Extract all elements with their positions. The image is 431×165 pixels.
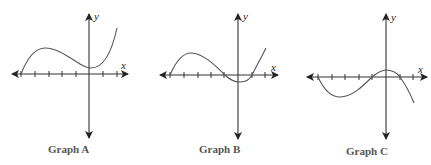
graph-c-caption: Graph C [346, 145, 388, 157]
graph-b: y x [160, 10, 278, 139]
graph-b-caption: Graph B [199, 143, 240, 155]
graph-a-caption: Graph A [48, 143, 89, 155]
y-axis-label: y [242, 10, 248, 22]
graph-a: y x [12, 10, 128, 138]
graphs-figure: y x y x [0, 0, 431, 165]
curve-a [21, 28, 117, 74]
y-axis-label: y [93, 10, 99, 22]
graph-c: y x [307, 11, 427, 139]
x-axis-label: x [417, 63, 423, 75]
x-axis-label: x [120, 59, 126, 71]
y-axis-label: y [390, 11, 396, 23]
x-axis-label: x [270, 61, 276, 73]
